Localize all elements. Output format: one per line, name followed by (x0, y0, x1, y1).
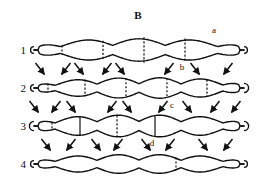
row-number-3: 3 (14, 120, 26, 132)
transition-arrow (62, 63, 71, 75)
chromosome-coiling-diagram (0, 0, 263, 184)
chromosome-outline (34, 39, 244, 50)
transition-arrow (114, 139, 123, 151)
chromosome-outline (34, 115, 244, 126)
arrow-band-2-3 (30, 101, 241, 113)
transition-arrow (36, 63, 45, 75)
transition-arrow (67, 101, 76, 113)
row-number-1: 1 (14, 44, 26, 56)
chromosome-row-4 (31, 155, 248, 174)
transition-arrow (224, 139, 233, 151)
chromosome-outline (34, 88, 244, 98)
transition-arrow (166, 139, 175, 151)
transition-arrow (116, 63, 125, 75)
panel-label-b: B (131, 9, 145, 21)
chromosome-row-2 (31, 78, 249, 98)
point-label-b: b (177, 62, 187, 72)
transition-arrow (103, 63, 112, 75)
chromosome-row-3 (29, 115, 248, 137)
chromosome-outline (34, 164, 244, 173)
chromosome-outline (34, 78, 244, 88)
chromosome-row-1 (31, 37, 248, 62)
arrow-band-3-4 (42, 139, 233, 151)
point-label-d: d (147, 138, 157, 148)
transition-arrow (42, 139, 51, 151)
transition-arrow (67, 139, 76, 151)
transition-arrow (211, 101, 220, 113)
transition-arrow (52, 101, 61, 113)
transition-arrow (232, 101, 241, 113)
arrow-band-1-2 (36, 63, 233, 75)
transition-arrow (183, 101, 192, 113)
transition-arrow (75, 63, 84, 75)
transition-arrow (224, 63, 233, 75)
transition-arrow (123, 101, 132, 113)
arrow-bands-layer (30, 63, 241, 151)
transition-arrow (108, 101, 117, 113)
transition-arrow (30, 101, 39, 113)
row-number-2: 2 (14, 82, 26, 94)
chromosome-outline (34, 50, 244, 61)
chromosome-outline (34, 155, 244, 164)
transition-arrow (191, 63, 200, 75)
row-number-4: 4 (14, 158, 26, 170)
point-label-c: c (167, 100, 177, 110)
point-label-a: a (209, 25, 219, 35)
transition-arrow (165, 63, 174, 75)
transition-arrow (92, 139, 101, 151)
transition-arrow (199, 139, 208, 151)
chromosome-outline (34, 126, 244, 137)
